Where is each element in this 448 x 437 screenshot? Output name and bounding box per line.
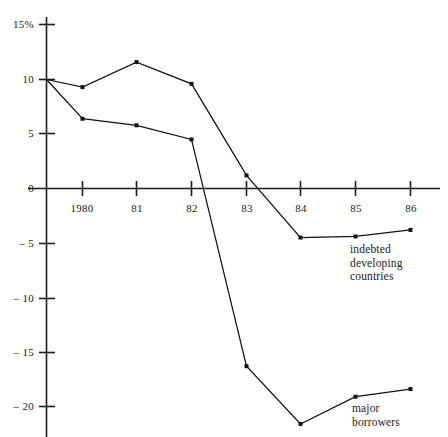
data-point-marker [190,82,194,86]
data-point-marker [299,236,303,240]
x-tick-label-1980: 1980 [70,202,93,214]
x-tick-label-83: 83 [241,202,253,214]
x-tick-label-82: 82 [186,202,198,214]
line-chart: 15% 10 5 0 – 5 – 10 – 15 – 20 1980 81 82… [0,0,448,437]
y-tick-label-neg10: – 10 [13,292,35,304]
x-tick-label-81: 81 [131,202,143,214]
x-tick-label-84: 84 [295,202,307,214]
data-point-marker [409,228,413,232]
series-label-major-borrowers: major borrowers [352,402,400,429]
y-tick-label-neg5: – 5 [18,237,34,249]
data-point-marker [81,117,85,121]
x-axis-labels: 1980 81 82 83 84 85 86 [70,202,417,214]
x-tick-label-85: 85 [350,202,362,214]
y-tick-label-15: 15% [13,18,34,30]
series-label-indebted-developing-countries: indebted developing countries [350,243,403,284]
y-tick-label-neg15: – 15 [13,346,35,358]
data-point-marker [135,123,139,127]
y-axis-labels: 15% 10 5 0 – 5 – 10 – 15 – 20 [13,18,35,412]
data-point-marker [245,364,249,368]
data-point-marker [354,395,358,399]
data-point-marker [299,422,303,426]
y-tick-label-5: 5 [28,127,34,139]
x-tick-label-86: 86 [405,202,417,214]
data-point-marker [135,60,139,64]
y-tick-label-0: 0 [28,182,34,194]
chart-container: 15% 10 5 0 – 5 – 10 – 15 – 20 1980 81 82… [0,0,448,437]
y-tick-label-neg20: – 20 [13,400,35,412]
data-point-marker [81,85,85,89]
y-tick-label-10: 10 [22,73,34,85]
data-point-marker [245,173,249,177]
data-point-marker [409,387,413,391]
data-point-marker [190,137,194,141]
data-point-marker [354,234,358,238]
